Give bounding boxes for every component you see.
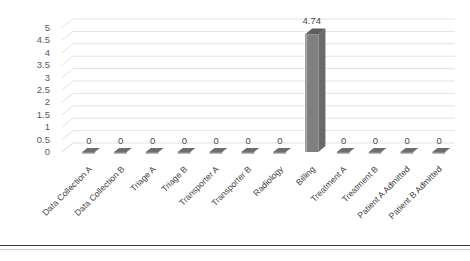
y-tick-label: 0.5: [16, 135, 50, 145]
gridline: [62, 19, 455, 28]
bar-stub: [146, 148, 164, 152]
gridline: [62, 56, 455, 65]
bar-stub-front: [241, 152, 254, 154]
bar-stub: [369, 148, 387, 152]
bar-8[interactable]: [337, 148, 355, 154]
bar-stub-front: [273, 152, 286, 154]
chart-plot-area: [0, 0, 470, 261]
bar-stub: [210, 148, 228, 152]
y-tick-label: 2.5: [16, 85, 50, 95]
gridline: [62, 44, 455, 53]
bar-stub-front: [146, 152, 159, 154]
bar-stub: [178, 148, 196, 152]
bar-2[interactable]: [146, 148, 164, 154]
bar-stub: [273, 148, 291, 152]
chart-container: 00.511.522.533.544.55 00000004.740000 Da…: [0, 0, 470, 261]
bar-6[interactable]: [273, 148, 291, 154]
bar-1[interactable]: [114, 148, 132, 154]
gridline: [62, 106, 455, 115]
bar-highlight-edge: [305, 34, 307, 152]
bottom-border-rule-secondary: [0, 249, 470, 250]
bar-11[interactable]: [432, 148, 450, 154]
bottom-border-rule: [0, 245, 470, 246]
gridlines-group: [62, 19, 455, 152]
bar-stub: [114, 148, 132, 152]
gridline: [62, 31, 455, 40]
bar-stub-front: [178, 152, 191, 154]
data-label: 0: [419, 136, 459, 146]
bar-0[interactable]: [82, 148, 100, 154]
gridline: [62, 81, 455, 90]
gridline: [62, 69, 455, 78]
bar-stub-front: [114, 152, 127, 154]
y-tick-label: 3: [16, 73, 50, 83]
y-tick-label: 4: [16, 48, 50, 58]
gridline: [62, 93, 455, 102]
bar-stub-front: [337, 152, 350, 154]
gridline: [62, 118, 455, 127]
bar-stub: [82, 148, 100, 152]
bar-side-face: [318, 28, 325, 152]
bar-stub-front: [369, 152, 382, 154]
data-label: 4.74: [292, 16, 332, 26]
y-tick-label: 2: [16, 97, 50, 107]
y-tick-label: 5: [16, 23, 50, 33]
y-tick-label: 4.5: [16, 35, 50, 45]
y-tick-label: 1.5: [16, 110, 50, 120]
bar-9[interactable]: [369, 148, 387, 154]
bar-5[interactable]: [241, 148, 259, 154]
bar-stub: [401, 148, 419, 152]
y-tick-label: 1: [16, 122, 50, 132]
bar-stub-front: [401, 152, 414, 154]
bar-stub: [432, 148, 450, 152]
y-tick-label: 0: [16, 147, 50, 157]
bar-stub-front: [82, 152, 95, 154]
y-tick-label: 3.5: [16, 60, 50, 70]
bars-group: [82, 28, 450, 153]
bar-stub: [241, 148, 259, 152]
bar-stub: [337, 148, 355, 152]
bar-10[interactable]: [401, 148, 419, 154]
bar-4[interactable]: [210, 148, 228, 154]
data-label: 0: [260, 136, 300, 146]
bar-7[interactable]: [305, 28, 325, 152]
bar-3[interactable]: [178, 148, 196, 154]
bar-stub-front: [210, 152, 223, 154]
bar-stub-front: [432, 152, 445, 154]
